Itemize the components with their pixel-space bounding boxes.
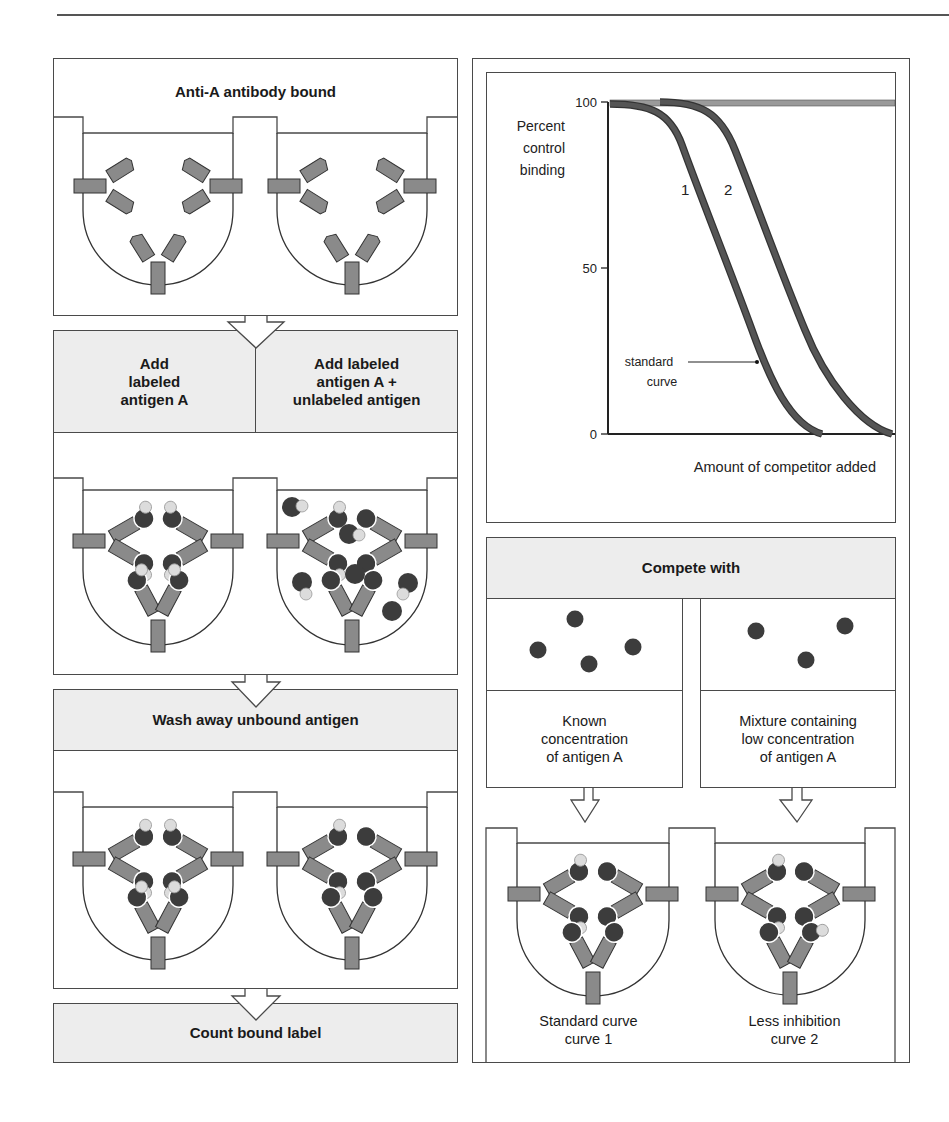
arrow-icon-4 bbox=[571, 788, 599, 822]
mixture-antigen-dots bbox=[748, 618, 854, 669]
step2-wells bbox=[53, 478, 458, 652]
ytick-0: 0 bbox=[590, 427, 597, 442]
y-axis-label: Percentcontrolbinding bbox=[517, 118, 565, 178]
step1-wells bbox=[53, 117, 458, 294]
compete-wells bbox=[486, 828, 895, 1062]
arrow-icon-3 bbox=[232, 989, 280, 1020]
control-line bbox=[610, 100, 895, 106]
ytick-50: 50 bbox=[583, 261, 597, 276]
arrow-icon-5 bbox=[780, 788, 812, 822]
step3-wells bbox=[53, 792, 458, 969]
diagram-artwork: 100 50 0 Percentcontrolbinding Amount of… bbox=[0, 0, 949, 1122]
curve-1-label: 1 bbox=[681, 181, 689, 198]
competition-chart: 100 50 0 Percentcontrolbinding Amount of… bbox=[517, 95, 895, 475]
standard-curve-annotation: standardcurve bbox=[625, 355, 678, 389]
curve-1-fill bbox=[610, 104, 822, 434]
arrow-icon-2 bbox=[232, 675, 280, 707]
arrow-icon-1 bbox=[228, 316, 284, 348]
curve-1 bbox=[610, 104, 822, 434]
ytick-100: 100 bbox=[575, 95, 597, 110]
known-antigen-dots bbox=[530, 611, 642, 673]
curve-2-label: 2 bbox=[724, 181, 732, 198]
x-axis-label: Amount of competitor added bbox=[694, 459, 876, 475]
